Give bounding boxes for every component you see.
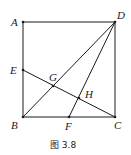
- point-G: [52, 85, 55, 88]
- segment-EC: [23, 70, 115, 117]
- segment-BD: [23, 22, 115, 117]
- point-E: [22, 69, 25, 72]
- point-H: [78, 97, 81, 100]
- geometry-diagram: A D E G H B F C 图 3.8: [0, 0, 131, 155]
- point-C: [114, 116, 117, 119]
- label-G: G: [49, 71, 57, 83]
- figure-caption: 图 3.8: [50, 140, 76, 150]
- point-D: [114, 21, 117, 24]
- point-A: [22, 21, 25, 24]
- label-B: B: [11, 119, 18, 131]
- point-F: [68, 116, 71, 119]
- label-C: C: [114, 119, 122, 131]
- label-D: D: [116, 9, 125, 21]
- label-E: E: [9, 64, 17, 76]
- point-B: [22, 116, 25, 119]
- label-A: A: [10, 16, 18, 28]
- label-H: H: [84, 88, 94, 100]
- label-F: F: [64, 120, 72, 132]
- segment-DF: [69, 22, 115, 117]
